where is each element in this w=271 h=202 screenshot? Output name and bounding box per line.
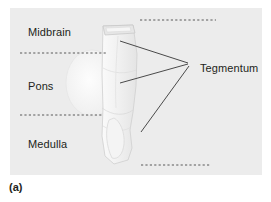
- tegmentum-leader-lower: [141, 66, 189, 132]
- label-pons: Pons: [28, 80, 53, 92]
- tegmentum-leader-lines: [120, 41, 189, 132]
- figure-caption: (a): [9, 181, 22, 193]
- label-medulla: Medulla: [28, 138, 67, 150]
- label-tegmentum: Tegmentum: [200, 62, 258, 74]
- tegmentum-leader-middle: [120, 64, 188, 83]
- label-midbrain: Midbrain: [28, 26, 71, 38]
- figure-a-brainstem: Midbrain Pons Medulla Tegmentum (a): [0, 0, 271, 202]
- tegmentum-leader-upper: [120, 41, 188, 63]
- figure-panel: Midbrain Pons Medulla Tegmentum: [10, 8, 262, 175]
